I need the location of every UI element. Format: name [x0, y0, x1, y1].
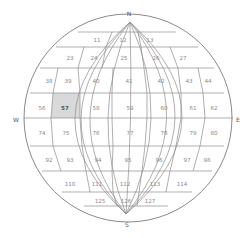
grid-cell-127[interactable]: 127 — [145, 198, 156, 204]
grid-cell-57[interactable]: 57 — [61, 105, 69, 111]
grid-cell-42[interactable]: 42 — [157, 78, 164, 84]
grid-cell-110[interactable]: 110 — [65, 181, 76, 187]
grid-cell-126[interactable]: 126 — [121, 198, 132, 204]
grid-cell-12[interactable]: 12 — [119, 37, 126, 43]
grid-cell-114[interactable]: 114 — [177, 181, 188, 187]
grid-cell-93[interactable]: 93 — [66, 157, 74, 163]
grid-cell-78[interactable]: 78 — [160, 130, 168, 136]
grid-cell-125[interactable]: 125 — [95, 198, 106, 204]
grid-cell-95[interactable]: 95 — [124, 157, 132, 163]
grid-cell-79[interactable]: 79 — [189, 130, 197, 136]
grid-cell-112[interactable]: 112 — [120, 181, 131, 187]
grid-cell-58[interactable]: 58 — [92, 105, 100, 111]
grid-cell-92[interactable]: 92 — [45, 157, 52, 163]
south-label: S — [125, 221, 129, 228]
grid-cell-13[interactable]: 13 — [146, 37, 154, 43]
grid-cell-26[interactable]: 26 — [152, 55, 160, 61]
grid-cell-41[interactable]: 41 — [125, 78, 133, 84]
west-label: W — [13, 116, 19, 123]
grid-cell-39[interactable]: 39 — [64, 78, 72, 84]
grid-cell-23[interactable]: 23 — [66, 55, 74, 61]
grid-cell-40[interactable]: 40 — [92, 78, 100, 84]
grid-cell-60[interactable]: 60 — [160, 105, 168, 111]
grid-cell-77[interactable]: 77 — [126, 130, 134, 136]
grid-cell-61[interactable]: 61 — [189, 105, 197, 111]
globe-grid-diagram: 1112132324252627383940414243445657585960… — [0, 0, 252, 238]
grid-cell-59[interactable]: 59 — [126, 105, 134, 111]
grid-cell-113[interactable]: 113 — [150, 181, 161, 187]
grid-cell-38[interactable]: 38 — [45, 78, 53, 84]
east-label: E — [236, 116, 240, 123]
north-label: N — [127, 10, 132, 17]
grid-cell-27[interactable]: 27 — [179, 55, 187, 61]
grid-cell-76[interactable]: 76 — [92, 130, 100, 136]
grid-cell-44[interactable]: 44 — [204, 78, 212, 84]
grid-cell-74[interactable]: 74 — [38, 130, 46, 136]
grid-cell-96[interactable]: 96 — [155, 157, 163, 163]
grid-cell-24[interactable]: 24 — [90, 55, 98, 61]
grid-cell-75[interactable]: 75 — [62, 130, 70, 136]
grid-cell-43[interactable]: 43 — [185, 78, 193, 84]
grid-cell-80[interactable]: 80 — [210, 130, 218, 136]
grid-cell-97[interactable]: 97 — [183, 157, 191, 163]
grid-cell-25[interactable]: 25 — [120, 55, 128, 61]
grid-cell-111[interactable]: 111 — [92, 181, 103, 187]
compass-labels: N S W E — [13, 10, 240, 228]
grid-cell-94[interactable]: 94 — [94, 157, 102, 163]
grid-cell-62[interactable]: 62 — [210, 105, 217, 111]
grid-cell-98[interactable]: 98 — [203, 157, 211, 163]
grid-cell-56[interactable]: 56 — [38, 105, 46, 111]
grid-cell-11[interactable]: 11 — [93, 37, 101, 43]
